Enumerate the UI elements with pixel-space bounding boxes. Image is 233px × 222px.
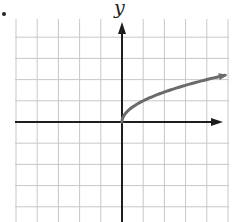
graph-plot bbox=[0, 0, 233, 222]
axes bbox=[15, 22, 223, 222]
sqrt-curve bbox=[122, 73, 228, 122]
